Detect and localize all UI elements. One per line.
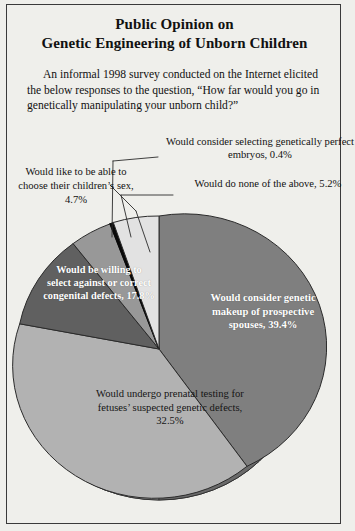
callout-label-embryos: Would consider selecting genetically per… — [165, 135, 355, 162]
callout-label-sex: Would like to be able to choose their ch… — [17, 165, 135, 206]
slice-label-spouses: Would consider genetic makeup of prospec… — [193, 291, 333, 332]
slice-label-congenital: Would be willing to select against or co… — [43, 263, 155, 303]
callout-label-none: Would do none of the above, 5.2% — [183, 177, 353, 190]
slice-label-prenatal: Would undergo prenatal testing for fetus… — [95, 387, 245, 428]
pie-slices — [13, 214, 327, 498]
chart-frame: Public Opinion on Genetic Engineering of… — [6, 4, 341, 524]
